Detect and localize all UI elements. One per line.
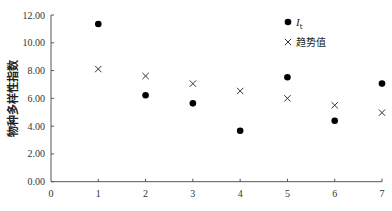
circle-marker: [331, 117, 338, 124]
x-marker: [237, 88, 243, 94]
circle-marker: [190, 100, 197, 107]
axes: 0.002.004.006.008.0010.0012.0001234567: [23, 10, 385, 199]
x-marker: [190, 80, 196, 86]
y-tick-label: 12.00: [23, 10, 46, 21]
x-marker: [95, 66, 101, 72]
circle-marker: [284, 74, 291, 81]
x-marker: [284, 95, 290, 101]
circle-marker: [379, 80, 386, 87]
x-tick-label: 1: [96, 188, 101, 199]
series-it: [95, 21, 385, 134]
scatter-chart: 0.002.004.006.008.0010.0012.0001234567物种…: [0, 0, 392, 211]
series-trend: [95, 66, 385, 116]
legend-label-trend: 趋势值: [296, 36, 326, 48]
x-tick-label: 6: [332, 188, 337, 199]
circle-marker: [237, 127, 244, 134]
y-axis-title: 物种多样性指数: [6, 59, 20, 137]
y-tick-label: 6.00: [28, 93, 46, 104]
x-tick-label: 3: [190, 188, 195, 199]
x-tick-label: 4: [238, 188, 243, 199]
y-tick-label: 4.00: [28, 121, 46, 132]
y-tick-label: 2.00: [28, 148, 46, 159]
x-tick-label: 0: [49, 188, 54, 199]
x-marker: [285, 39, 291, 45]
legend-label-it: It: [295, 16, 303, 31]
circle-marker: [285, 19, 292, 26]
y-tick-label: 10.00: [23, 37, 46, 48]
legend: It趋势值: [285, 16, 326, 48]
x-tick-label: 5: [285, 188, 290, 199]
x-tick-label: 7: [380, 188, 385, 199]
x-tick-label: 2: [143, 188, 148, 199]
circle-marker: [95, 21, 102, 28]
x-marker: [142, 73, 148, 79]
x-marker: [379, 109, 385, 115]
x-marker: [332, 102, 338, 108]
y-tick-label: 0.00: [28, 176, 46, 187]
y-tick-label: 8.00: [28, 65, 46, 76]
circle-marker: [142, 92, 149, 99]
